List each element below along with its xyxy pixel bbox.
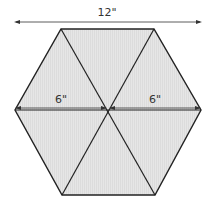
diagram-canvas: 12" 6" 6" — [0, 0, 212, 205]
overall-width-label: 12" — [97, 6, 116, 19]
overall-width-dimension — [14, 20, 202, 24]
left-half-label: 6" — [55, 93, 67, 106]
right-half-label: 6" — [149, 93, 161, 106]
hexagon-diagram: 12" 6" 6" — [0, 0, 212, 205]
